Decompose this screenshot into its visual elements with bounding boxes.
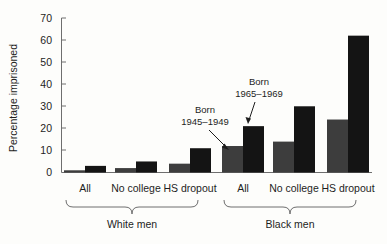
chart-figure: Percentage imprisoned 70 60 50 40 30 20 … bbox=[0, 0, 387, 244]
bar-white-all-series-1 bbox=[64, 170, 85, 172]
bar-black-no-college-series-1 bbox=[273, 142, 294, 173]
cat-label-white-all: All bbox=[79, 182, 91, 194]
bar-black-all-series-1 bbox=[222, 146, 243, 172]
bar-black-all-series-2 bbox=[243, 126, 264, 172]
bar-black-hs-dropout-series-2 bbox=[348, 36, 369, 173]
bar-white-no-college-series-1 bbox=[115, 168, 136, 172]
annot-1965-line1: Born bbox=[249, 76, 269, 87]
y-tick-50: 50 bbox=[40, 56, 52, 68]
y-tick-0: 0 bbox=[46, 166, 52, 178]
axis-lines bbox=[62, 18, 373, 173]
bar-black-hs-dropout-series-1 bbox=[327, 120, 348, 173]
cat-label-white-hs-dropout: HS dropout bbox=[163, 182, 216, 194]
group-label-white: White men bbox=[107, 218, 157, 230]
category-labels: All No college HS dropout All No college… bbox=[79, 182, 374, 194]
brace-white-path bbox=[66, 200, 198, 214]
y-tick-60: 60 bbox=[40, 34, 52, 46]
annot-1965-line2: 1965–1969 bbox=[235, 88, 283, 99]
cat-label-black-hs-dropout: HS dropout bbox=[321, 182, 374, 194]
bar-chart-svg: Percentage imprisoned 70 60 50 40 30 20 … bbox=[0, 0, 387, 244]
y-tick-20: 20 bbox=[40, 122, 52, 134]
annotation-born-1965: Born 1965–1969 bbox=[235, 76, 283, 124]
y-tick-10: 10 bbox=[40, 144, 52, 156]
bars-layer bbox=[64, 36, 369, 173]
cat-label-white-no-college: No college bbox=[111, 182, 161, 194]
y-tick-70: 70 bbox=[40, 12, 52, 24]
y-axis-title: Percentage imprisoned bbox=[7, 44, 19, 152]
cat-label-black-no-college: No college bbox=[269, 182, 319, 194]
group-brace-white: White men bbox=[66, 200, 198, 230]
bar-white-no-college-series-2 bbox=[136, 161, 157, 172]
brace-black-path bbox=[224, 200, 356, 214]
annot-1965-arrow-line bbox=[249, 102, 255, 120]
y-axis-title-text: Percentage imprisoned bbox=[7, 44, 19, 152]
annot-1945-line2: 1945–1949 bbox=[181, 116, 229, 127]
annot-1945-line1: Born bbox=[195, 104, 215, 115]
bar-white-hs-dropout-series-2 bbox=[190, 148, 211, 172]
y-axis-tick-labels: 70 60 50 40 30 20 10 0 bbox=[40, 12, 52, 178]
bar-white-hs-dropout-series-1 bbox=[169, 164, 190, 173]
bar-black-no-college-series-2 bbox=[294, 106, 315, 172]
axis-path bbox=[62, 18, 373, 173]
y-tick-30: 30 bbox=[40, 100, 52, 112]
cat-label-black-all: All bbox=[237, 182, 249, 194]
annotation-born-1945: Born 1945–1949 bbox=[181, 104, 229, 150]
group-brace-black: Black men bbox=[224, 200, 356, 230]
bar-white-all-series-2 bbox=[85, 166, 106, 173]
y-tick-40: 40 bbox=[40, 78, 52, 90]
group-label-black: Black men bbox=[265, 218, 314, 230]
